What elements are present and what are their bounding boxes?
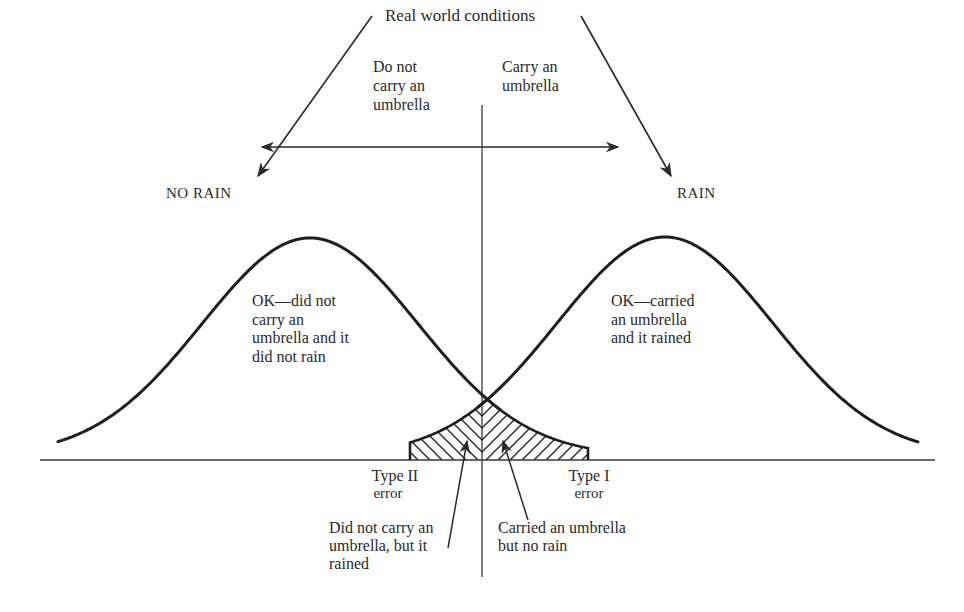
type-1-error-title: Type I [560, 466, 618, 485]
arrow-to-type1-region [503, 441, 528, 520]
type-1-error-description: Carried an umbrella but no rain [498, 519, 626, 555]
ok-umbrella-rain-label: OK—carried an umbrella and it rained [611, 292, 695, 348]
signal-detection-diagram [0, 0, 964, 612]
rain-distribution-curve [478, 237, 918, 442]
type-2-error-title: Type II [360, 466, 430, 485]
do-not-carry-umbrella-label: Do not carry an umbrella [373, 57, 430, 114]
no-rain-label: NO RAIN [166, 184, 232, 203]
rain-label: RAIN [677, 184, 716, 203]
type-1-error-sub: error [560, 484, 618, 503]
ok-no-umbrella-no-rain-label: OK—did not carry an umbrella and it did … [252, 292, 349, 366]
real-world-conditions-title: Real world conditions [385, 6, 535, 25]
overlap-outline [410, 400, 588, 460]
arrow-to-no-rain [258, 16, 372, 176]
arrow-to-rain [581, 16, 671, 176]
carry-umbrella-label: Carry an umbrella [502, 57, 559, 95]
type-2-error-description: Did not carry an umbrella, but it rained [329, 519, 433, 573]
type-2-error-sub: error [360, 484, 416, 503]
